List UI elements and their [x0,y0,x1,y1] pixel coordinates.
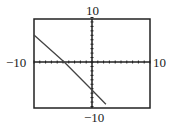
y-min-label: −10 [84,111,104,124]
x-min-label: −10 [6,56,26,69]
y-max-label: 10 [86,4,99,17]
x-max-label: 10 [153,56,166,69]
data-line [34,35,106,104]
